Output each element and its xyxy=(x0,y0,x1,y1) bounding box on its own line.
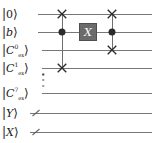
wire-label-c-ex-1: |C1ex⟩ xyxy=(2,62,29,74)
bundle-slash-icon xyxy=(31,108,41,118)
wire-label-y-register: |Y⟩ xyxy=(2,107,18,119)
gate-label: X xyxy=(84,27,92,38)
wire-line-x-register xyxy=(30,132,152,133)
ket-close-bar: ⟩ xyxy=(13,25,18,39)
ket-close-bar: ⟩ xyxy=(13,106,18,120)
wire-label-x-register: |X⟩ xyxy=(2,126,19,138)
wire-superscript: 7 xyxy=(14,86,18,93)
wire-symbol: 0 xyxy=(6,8,13,21)
wire-superscript: 0 xyxy=(14,43,18,50)
vertical-ellipsis xyxy=(42,74,44,87)
ellipsis-dot xyxy=(42,79,44,81)
control-line-controlled-swap-left xyxy=(62,14,63,68)
swap-target-ancilla[interactable] xyxy=(57,9,68,20)
quantum-circuit-diagram: |0⟩|b⟩|C0ex⟩|C1ex⟩|C7ex⟩|Y⟩|X⟩X xyxy=(0,0,160,143)
ellipsis-dot xyxy=(42,85,44,87)
bundle-slash-icon xyxy=(31,127,41,137)
ket-close-bar: ⟩ xyxy=(24,43,29,57)
swap-target-ancilla[interactable] xyxy=(107,9,118,20)
wire-label-c-ex-0: |C0ex⟩ xyxy=(2,44,29,56)
ket-close-bar: ⟩ xyxy=(13,7,18,21)
wire-label-c-ex-7: |C7ex⟩ xyxy=(2,87,29,99)
wire-line-c-ex-7 xyxy=(42,93,152,94)
control-on-b[interactable] xyxy=(59,29,66,36)
wire-superscript: 1 xyxy=(14,61,18,68)
wire-line-c-ex-0 xyxy=(42,50,152,51)
ellipsis-dot xyxy=(42,74,44,76)
swap-target-c-ex-0[interactable] xyxy=(107,45,118,56)
ket-close-bar: ⟩ xyxy=(24,86,29,100)
wire-line-ancilla-zero xyxy=(38,14,152,15)
wire-label-ancilla-zero: |0⟩ xyxy=(2,8,18,20)
wire-label-b-register: |b⟩ xyxy=(2,26,18,38)
pauli-x-gate[interactable]: X xyxy=(79,23,97,41)
swap-target-c-ex-1[interactable] xyxy=(57,63,68,74)
ket-close-bar: ⟩ xyxy=(14,125,19,139)
wire-line-y-register xyxy=(30,113,152,114)
control-on-b[interactable] xyxy=(109,29,116,36)
wire-symbol: X xyxy=(6,126,14,139)
ket-close-bar: ⟩ xyxy=(24,61,29,75)
